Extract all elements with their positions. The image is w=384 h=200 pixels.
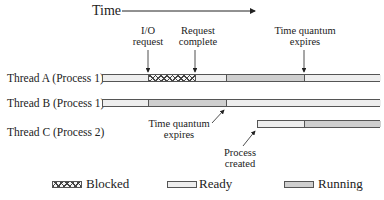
segment-ready	[103, 75, 149, 81]
time-quantum-bottom-callout: Time quantum expires	[144, 118, 214, 140]
segment-blocked	[149, 75, 196, 81]
state-divider	[148, 100, 149, 106]
state-divider	[304, 75, 305, 81]
segment-running	[149, 100, 227, 106]
legend-running-swatch	[284, 181, 314, 188]
thread-b-timeline	[102, 99, 380, 107]
segment-ready	[103, 100, 149, 106]
legend-ready-swatch	[167, 181, 197, 188]
legend-blocked-label: Blocked	[86, 177, 129, 191]
thread-c-label: Thread C (Process 2)	[7, 126, 104, 138]
process-created-line1: Process	[220, 147, 260, 158]
thread-b-label: Thread B (Process 1)	[7, 97, 104, 109]
time-quantum-bottom-line1: Time quantum	[144, 118, 214, 129]
process-created-callout: Process created	[220, 147, 260, 169]
legend-running-label: Running	[318, 177, 363, 191]
process-created-line2: created	[220, 158, 260, 169]
thread-c-timeline	[257, 120, 380, 128]
time-quantum-top-callout: Time quantum expires	[270, 25, 340, 47]
segment-ready	[258, 121, 305, 127]
legend-blocked-swatch	[52, 181, 82, 188]
io-request-line1: I/O	[132, 25, 164, 36]
segment-running	[227, 75, 305, 81]
io-request-line2: request	[132, 36, 164, 47]
request-complete-callout: Request complete	[178, 25, 218, 47]
segment-ready	[305, 75, 381, 81]
request-complete-line1: Request	[178, 25, 218, 36]
state-divider	[148, 75, 149, 81]
segment-running	[305, 121, 381, 127]
legend-ready-label: Ready	[199, 177, 232, 191]
process-created-arrow-icon	[243, 131, 255, 146]
segment-ready	[196, 75, 227, 81]
state-divider	[195, 75, 196, 81]
thread-a-label: Thread A (Process 1)	[7, 72, 104, 84]
time-quantum-bottom-line2: expires	[144, 129, 214, 140]
time-quantum-top-line2: expires	[270, 36, 340, 47]
io-request-callout: I/O request	[132, 25, 164, 47]
state-divider	[226, 100, 227, 106]
request-complete-line2: complete	[178, 36, 218, 47]
time-quantum-top-line1: Time quantum	[270, 25, 340, 36]
segment-ready	[227, 100, 381, 106]
state-divider	[304, 121, 305, 127]
state-divider	[226, 75, 227, 81]
thread-a-timeline	[102, 74, 380, 82]
